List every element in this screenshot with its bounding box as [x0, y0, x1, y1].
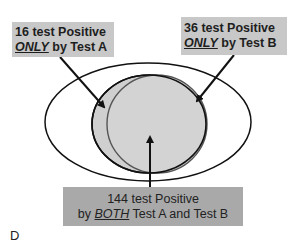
- test-a-only-callout: 16 test Positive ONLY by Test A: [12, 22, 114, 57]
- arrow-test-a-only: [60, 57, 104, 107]
- test-b-circle: [107, 75, 207, 173]
- arrow-test-b-only: [197, 55, 234, 101]
- both-emphasis: BOTH: [95, 207, 130, 221]
- test-a-only-line2: by Test A: [49, 40, 107, 54]
- test-b-only-emphasis: ONLY: [184, 36, 218, 50]
- both-line2-rest: Test A and Test B: [129, 207, 228, 221]
- both-tests-callout: 144 test Positive by BOTH Test A and Tes…: [63, 187, 243, 226]
- test-a-only-line1: 16 test Positive: [15, 25, 106, 39]
- test-b-only-line1: 36 test Positive: [184, 21, 275, 35]
- test-b-only-line2: by Test B: [218, 36, 277, 50]
- both-line1: 144 test Positive: [63, 192, 243, 207]
- both-line2-prefix: by: [78, 207, 95, 221]
- test-a-only-emphasis: ONLY: [15, 40, 49, 54]
- panel-label: D: [10, 228, 19, 243]
- test-b-only-callout: 36 test Positive ONLY by Test B: [181, 17, 287, 55]
